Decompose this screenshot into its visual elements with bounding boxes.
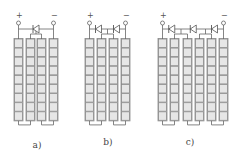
- pv-cell: [208, 94, 216, 103]
- bypass-diode-icon: [114, 25, 120, 33]
- pv-cell: [38, 85, 46, 94]
- pv-cell: [208, 85, 216, 94]
- diode-triangle-icon: [96, 25, 102, 33]
- bottom-interconnect: [114, 121, 126, 125]
- pv-cell: [50, 66, 58, 75]
- bottom-interconnect: [19, 121, 31, 125]
- pv-cell: [15, 75, 23, 84]
- cell-column: [170, 39, 179, 121]
- pv-cell: [220, 75, 228, 84]
- bypass-diode-icon: [212, 25, 218, 33]
- panel-b: +−b): [85, 11, 130, 147]
- negative-terminal-icon: [222, 21, 226, 25]
- pv-cell: [38, 94, 46, 103]
- pv-cell: [196, 39, 204, 48]
- pv-cell: [208, 39, 216, 48]
- pv-cell: [27, 85, 35, 94]
- pv-cell: [86, 112, 94, 121]
- pv-cell: [27, 66, 35, 75]
- pv-cell: [15, 85, 23, 94]
- pv-cell: [208, 48, 216, 57]
- pv-cell: [184, 112, 192, 121]
- pv-cell: [38, 103, 46, 112]
- pv-cell: [184, 85, 192, 94]
- pv-cell: [196, 94, 204, 103]
- pv-cell: [196, 48, 204, 57]
- pv-cell: [196, 112, 204, 121]
- pv-cell: [38, 112, 46, 121]
- pv-cell: [15, 94, 23, 103]
- pv-cell: [122, 75, 130, 84]
- pv-cell: [86, 39, 94, 48]
- pv-cell: [15, 39, 23, 48]
- pv-cell: [98, 48, 106, 57]
- pv-cell: [159, 66, 167, 75]
- pv-cell: [122, 85, 130, 94]
- pv-cell: [86, 85, 94, 94]
- cell-column: [207, 39, 216, 121]
- pv-cell: [208, 103, 216, 112]
- pv-cell: [184, 48, 192, 57]
- pv-cell: [50, 103, 58, 112]
- pv-cell: [27, 94, 35, 103]
- pv-cell: [196, 75, 204, 84]
- cell-column: [97, 39, 106, 121]
- pv-cell: [159, 48, 167, 57]
- bottom-interconnect: [42, 121, 54, 125]
- pv-cell: [50, 75, 58, 84]
- pv-cell: [171, 39, 179, 48]
- cell-column: [219, 39, 228, 121]
- pv-cell: [38, 75, 46, 84]
- pv-cell: [220, 39, 228, 48]
- cell-column: [14, 39, 23, 121]
- pv-cell: [110, 48, 118, 57]
- pv-cell: [184, 57, 192, 65]
- pv-cell: [50, 39, 58, 48]
- pv-cell: [15, 112, 23, 121]
- panel-label: b): [103, 137, 112, 147]
- pv-cell: [171, 94, 179, 103]
- pv-cell: [110, 66, 118, 75]
- diode-triangle-icon: [114, 25, 120, 33]
- positive-terminal-icon: [17, 21, 21, 25]
- pv-cell: [38, 66, 46, 75]
- positive-terminal-icon: [161, 21, 165, 25]
- pv-cell: [122, 94, 130, 103]
- cell-column: [183, 39, 192, 121]
- pv-cell: [110, 39, 118, 48]
- pv-cell: [220, 112, 228, 121]
- pv-cell: [27, 39, 35, 48]
- pv-cell: [27, 112, 35, 121]
- pv-cell: [122, 48, 130, 57]
- panel-c: +−c): [158, 11, 228, 147]
- bottom-interconnect: [163, 121, 175, 125]
- pv-cell: [50, 94, 58, 103]
- panel-label: a): [33, 140, 42, 150]
- pv-cell: [50, 112, 58, 121]
- pv-cell: [184, 39, 192, 48]
- pv-cell: [208, 66, 216, 75]
- positive-sign: +: [160, 11, 167, 20]
- bypass-diode-diagram: +−a)+−b)+−c): [0, 0, 242, 157]
- diode-triangle-icon: [169, 25, 175, 33]
- pv-cell: [50, 57, 58, 65]
- pv-cell: [220, 66, 228, 75]
- pv-cell: [15, 57, 23, 65]
- pv-cell: [208, 57, 216, 65]
- pv-cell: [171, 103, 179, 112]
- pv-cell: [208, 112, 216, 121]
- bypass-diode-icon: [169, 25, 175, 33]
- negative-sign: −: [221, 11, 228, 20]
- positive-terminal-icon: [88, 21, 92, 25]
- pv-cell: [159, 39, 167, 48]
- pv-cell: [15, 103, 23, 112]
- pv-cell: [171, 75, 179, 84]
- pv-cell: [38, 39, 46, 48]
- bottom-interconnect: [90, 121, 102, 125]
- cell-column: [26, 39, 35, 121]
- pv-cell: [98, 85, 106, 94]
- pv-cell: [15, 66, 23, 75]
- pv-cell: [220, 57, 228, 65]
- pv-cell: [98, 112, 106, 121]
- pv-cell: [159, 94, 167, 103]
